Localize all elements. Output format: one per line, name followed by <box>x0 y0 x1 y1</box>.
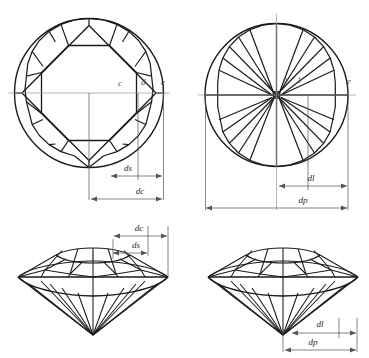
crown-dim-label-ds: ds <box>124 163 133 173</box>
crown-label-c: c <box>118 78 122 88</box>
profile-crown-dimension-group <box>93 226 168 277</box>
crown-label-d: d <box>141 77 146 87</box>
profile1-dim-label-ds: ds <box>132 240 141 250</box>
crown-label-e: e <box>161 77 165 87</box>
profile-pavilion-panel <box>208 248 358 335</box>
crown-dimension-arrowheads <box>91 174 162 202</box>
pavilion-dim-label-dl: dl <box>307 173 315 183</box>
profile2-dim-label-dp: dp <box>309 337 319 347</box>
pavilion-dim-label-dp: dp <box>299 195 309 205</box>
profile2-crown-facets <box>208 248 358 277</box>
diamond-proportions-figure: c d e ds dc <box>0 0 369 358</box>
pavilion-label-e: e <box>347 76 351 86</box>
pavilion-label-g: g <box>283 74 288 84</box>
profile2-pavilion-facets <box>208 277 358 335</box>
profile1-dim-label-dc: dc <box>135 223 144 233</box>
profile2-dim-label-dl: dl <box>316 319 324 329</box>
profile-pavilion-arrowheads <box>285 331 356 353</box>
crown-dim-label-dc: dc <box>136 186 145 196</box>
profile1-pavilion-facets <box>18 277 168 335</box>
